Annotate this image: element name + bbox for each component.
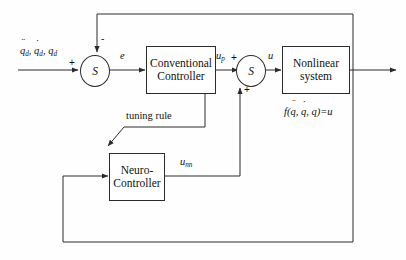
summing-junction-left-label: S	[92, 65, 98, 77]
unn-subscript: nn	[185, 161, 192, 169]
plant-q-dot: q	[301, 106, 306, 117]
nonlinear-system-block[interactable]: Nonlinear system	[282, 46, 350, 94]
nonlinear-system-line1: Nonlinear	[293, 57, 339, 70]
q-subscript: d	[53, 50, 57, 58]
summing-junction-left[interactable]: S	[80, 55, 110, 87]
q-dot-symbol: q	[34, 45, 39, 56]
error-signal-label: e	[120, 50, 125, 61]
plant-eq-suffix: )=u	[317, 106, 333, 117]
wire-layer	[0, 0, 406, 260]
neuro-controller-line1: Neuro-	[121, 164, 154, 177]
neuro-controller-block[interactable]: Neuro- Controller	[109, 153, 165, 201]
summing-junction-right-label: S	[248, 65, 254, 77]
block-diagram-canvas: qd, qd, qd + - S e Conventional Controll…	[0, 0, 406, 260]
sum-right-plus-input-sign: +	[231, 52, 237, 63]
plant-q-ddot: q	[290, 106, 295, 117]
sum-left-plus-sign: +	[69, 57, 75, 68]
plant-equation-label: f(q, q, q)=u	[284, 106, 333, 117]
control-input-label: u	[268, 50, 273, 61]
wire-feedback-bottom	[63, 70, 353, 242]
wire-unn	[163, 88, 240, 176]
unn-signal-label: unn	[180, 156, 192, 169]
neuro-controller-line2: Controller	[113, 177, 160, 190]
nonlinear-system-line2: system	[300, 70, 332, 83]
conventional-controller-line2: Controller	[157, 70, 204, 83]
tuning-rule-label: tuning rule	[126, 110, 172, 121]
conventional-controller-block[interactable]: Conventional Controller	[146, 46, 216, 94]
conventional-controller-line1: Conventional	[150, 57, 212, 70]
reference-signal-label: qd, qd, qd	[20, 45, 57, 58]
up-subscript: p	[221, 55, 225, 63]
summing-junction-right[interactable]: S	[236, 55, 266, 87]
sum-left-minus-sign: -	[101, 33, 104, 44]
up-signal-label: up	[216, 50, 225, 63]
q-ddot-symbol: q	[20, 45, 25, 56]
